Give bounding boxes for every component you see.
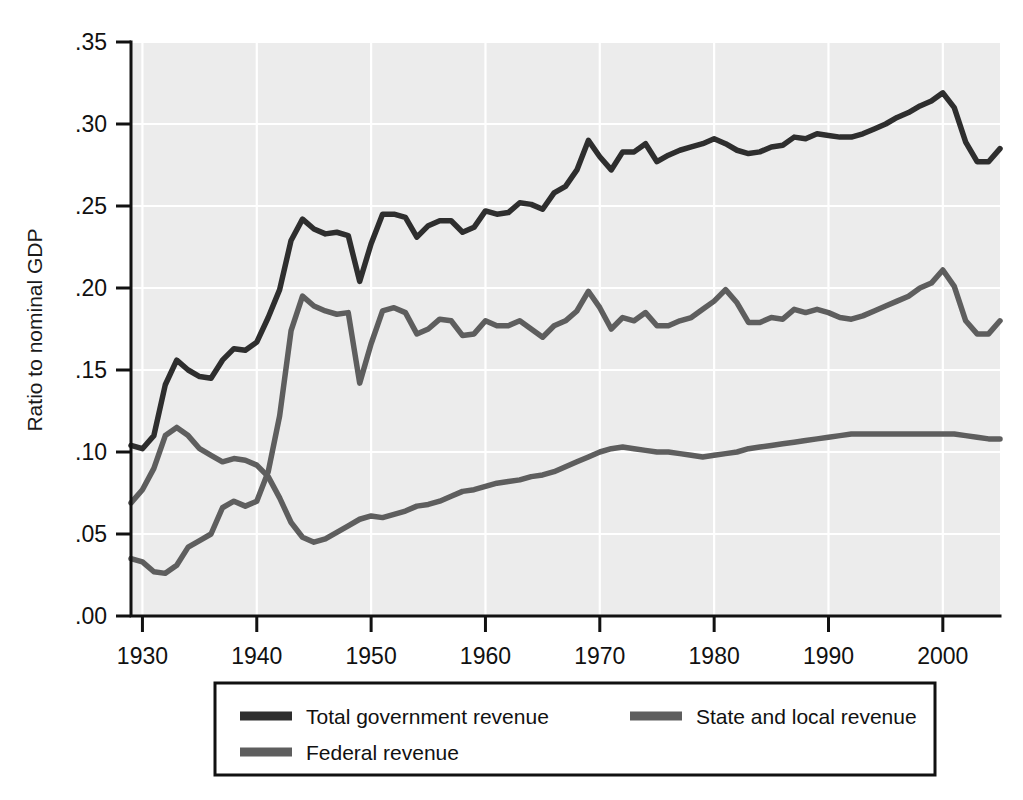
legend-label: State and local revenue [696, 705, 917, 728]
chart-legend: Total government revenueState and local … [215, 683, 935, 775]
y-tick-labels: .00.05.10.15.20.25.30.35 [75, 29, 107, 629]
y-tick-label: .15 [75, 357, 107, 383]
y-axis-label: Ratio to nominal GDP [23, 228, 46, 431]
y-tick-label: .30 [75, 111, 107, 137]
y-tick-label: .25 [75, 193, 107, 219]
y-tick-label: .10 [75, 439, 107, 465]
y-tick-label: .20 [75, 275, 107, 301]
x-tick-label: 1980 [689, 643, 740, 669]
x-tick-label: 1960 [460, 643, 511, 669]
y-tick-label: .35 [75, 29, 107, 55]
x-tick-label: 1930 [117, 643, 168, 669]
chart-svg: .00.05.10.15.20.25.30.35 193019401950196… [0, 0, 1023, 800]
x-tick-label: 1950 [346, 643, 397, 669]
x-tick-label: 1940 [231, 643, 282, 669]
x-tick-label: 1990 [803, 643, 854, 669]
y-tick-label: .05 [75, 521, 107, 547]
legend-label: Total government revenue [306, 705, 549, 728]
legend-label: Federal revenue [306, 741, 459, 764]
x-tick-labels: 19301940195019601970198019902000 [117, 643, 969, 669]
x-tick-label: 2000 [917, 643, 968, 669]
x-tick-label: 1970 [574, 643, 625, 669]
revenue-ratio-chart: .00.05.10.15.20.25.30.35 193019401950196… [0, 0, 1023, 800]
figure-root: .00.05.10.15.20.25.30.35 193019401950196… [0, 0, 1023, 800]
y-tick-label: .00 [75, 603, 107, 629]
